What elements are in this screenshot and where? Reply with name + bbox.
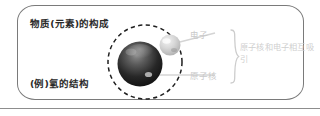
example-title: (例)氢的结构 <box>30 79 89 89</box>
composition-title: 物质(元素)的构成 <box>30 19 110 29</box>
atomic-structure-figure: 物质(元素)的构成 (例)氢的结构 电子 原子核 原子核和电子相互吸引 <box>0 0 320 116</box>
attraction-note: 原子核和电子相互吸引 <box>240 42 318 66</box>
electron-label: 电子 <box>190 31 208 40</box>
footer-rule <box>0 108 320 109</box>
nucleus-label: 原子核 <box>190 72 218 81</box>
